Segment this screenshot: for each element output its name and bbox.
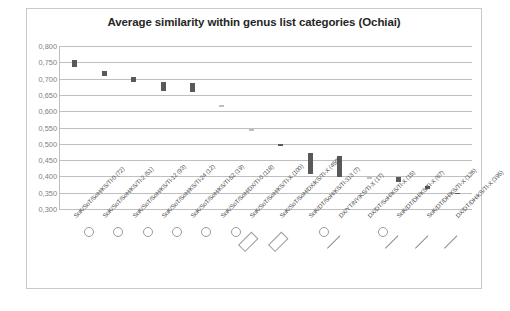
gridline — [60, 79, 472, 80]
bar — [131, 77, 136, 82]
bar — [308, 153, 313, 174]
bar — [278, 144, 283, 146]
gridline — [60, 144, 472, 145]
y-axis-tick-label: 0,300 — [39, 205, 58, 214]
gridline — [60, 209, 472, 210]
y-axis-tick-label: 0,450 — [39, 156, 58, 165]
bar — [249, 129, 254, 132]
y-axis-tick-label: 0,550 — [39, 123, 58, 132]
gridline — [60, 46, 472, 47]
y-axis-tick-label: 0,400 — [39, 172, 58, 181]
bar — [102, 71, 107, 76]
bar — [72, 60, 77, 67]
plot-area — [60, 46, 472, 209]
bar — [219, 105, 224, 108]
gridline — [60, 62, 472, 63]
gridline — [60, 95, 472, 96]
y-axis-tick-label: 0,800 — [39, 42, 58, 51]
bar — [161, 82, 166, 91]
y-axis-tick-label: 0,350 — [39, 188, 58, 197]
gridline — [60, 160, 472, 161]
y-axis-tick-label: 0,600 — [39, 107, 58, 116]
y-axis-tick-label: 0,500 — [39, 139, 58, 148]
bar — [190, 83, 195, 93]
y-axis-tick-label: 0,750 — [39, 58, 58, 67]
y-axis-tick-label: 0,650 — [39, 90, 58, 99]
gridline — [60, 111, 472, 112]
gridline — [60, 128, 472, 129]
y-axis-tick-label: 0,700 — [39, 74, 58, 83]
y-axis-tick-labels: 0,8000,7500,7000,6500,6000,5500,5000,450… — [26, 46, 57, 209]
chart-title: Average similarity within genus list cat… — [26, 16, 482, 28]
